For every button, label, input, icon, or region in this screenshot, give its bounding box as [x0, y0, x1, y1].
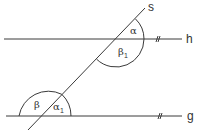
label-beta: β — [34, 99, 40, 110]
line-s — [28, 8, 145, 130]
label-g: g — [187, 109, 194, 123]
label-s: s — [148, 0, 154, 14]
label-alpha: α — [130, 25, 137, 36]
label-beta1-sub: 1 — [124, 52, 128, 59]
parallel-lines-diagram: s h g α β 1 β α 1 — [0, 0, 200, 136]
label-h: h — [186, 32, 193, 46]
label-alpha1: α — [53, 101, 60, 112]
label-alpha1-sub: 1 — [60, 107, 64, 114]
